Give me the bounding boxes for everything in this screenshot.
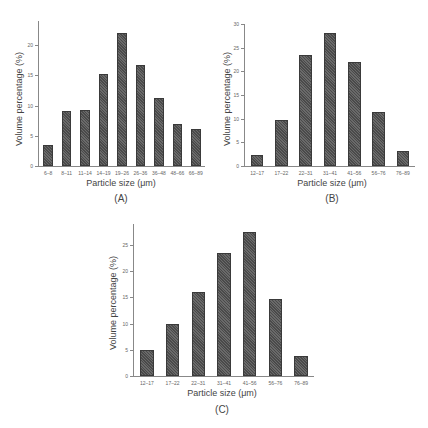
bar (217, 253, 230, 376)
y-tick-label: 10 (122, 321, 128, 327)
x-tick-label: 12–17 (140, 380, 154, 386)
x-tick-label: 8–11 (61, 170, 72, 176)
y-tick (241, 119, 245, 120)
x-tick-label: 14–19 (97, 170, 111, 176)
bar (43, 145, 53, 166)
bar (173, 124, 183, 166)
x-tick-label: 6–8 (44, 170, 52, 176)
plot-area-b: 05101520253012–1717–2222–3131–4141–5656–… (244, 24, 415, 167)
chart-panel-a: 051015206–88–1111–1414–1919–2626–3636–48… (0, 0, 214, 214)
y-tick-label: 5 (236, 139, 239, 145)
y-tick-label: 10 (233, 116, 239, 122)
x-tick-label: 31–41 (217, 380, 231, 386)
y-tick-label: 15 (27, 72, 33, 78)
y-axis-label-b: Volume percentage (%) (222, 52, 232, 146)
x-tick-label: 41–56 (347, 170, 361, 176)
y-tick-label: 20 (122, 268, 128, 274)
bar (191, 129, 201, 166)
bar (294, 356, 307, 376)
y-tick (241, 48, 245, 49)
bar (243, 232, 256, 376)
bar (117, 33, 127, 166)
caption-b: (B) (325, 193, 338, 204)
y-tick-label: 25 (233, 45, 239, 51)
x-tick-label: 76–89 (396, 170, 410, 176)
x-axis-label-a: Particle size (μm) (86, 178, 156, 188)
bar (140, 350, 153, 376)
x-tick-label: 56–76 (268, 380, 282, 386)
y-tick-label: 5 (30, 133, 33, 139)
bar (192, 292, 205, 376)
y-tick-label: 5 (125, 347, 128, 353)
x-tick-label: 12–17 (250, 170, 264, 176)
bar (251, 155, 264, 166)
x-tick-label: 76–89 (294, 380, 308, 386)
bar (166, 324, 179, 376)
x-tick-label: 19–26 (115, 170, 129, 176)
y-tick (241, 166, 245, 167)
x-axis-label-c: Particle size (μm) (187, 388, 257, 398)
x-tick-label: 17–22 (166, 380, 180, 386)
bar (136, 65, 146, 167)
y-tick (35, 45, 39, 46)
y-tick-label: 20 (27, 42, 33, 48)
x-tick-label: 17–22 (274, 170, 288, 176)
y-tick (35, 166, 39, 167)
y-tick (130, 245, 134, 246)
x-tick-label: 41–56 (243, 380, 257, 386)
bar (80, 110, 90, 166)
x-axis-label-b: Particle size (μm) (297, 178, 367, 188)
y-tick (130, 350, 134, 351)
y-tick (35, 136, 39, 137)
caption-c: (C) (215, 404, 229, 415)
caption-a: (A) (114, 193, 127, 204)
y-tick (130, 324, 134, 325)
y-tick-label: 10 (27, 103, 33, 109)
x-tick-label: 56–76 (372, 170, 386, 176)
bar (348, 62, 361, 166)
x-tick-label: 11–14 (78, 170, 92, 176)
bar (324, 33, 337, 166)
y-axis-label-a: Volume percentage (%) (14, 52, 24, 146)
y-tick-label: 20 (233, 68, 239, 74)
y-tick-label: 15 (233, 92, 239, 98)
x-tick-label: 48–66 (170, 170, 184, 176)
x-tick-label: 22–31 (191, 380, 205, 386)
bar (154, 98, 164, 166)
y-tick-label: 30 (233, 21, 239, 27)
y-tick (35, 106, 39, 107)
y-tick (241, 95, 245, 96)
y-tick-label: 0 (236, 163, 239, 169)
y-tick (241, 24, 245, 25)
bar (397, 151, 410, 166)
bar (275, 120, 288, 166)
bar (269, 299, 282, 376)
y-tick (35, 75, 39, 76)
x-tick-label: 36–48 (152, 170, 166, 176)
x-tick-label: 31–41 (323, 170, 337, 176)
y-axis-label-c: Volume percentage (%) (108, 256, 118, 350)
chart-panel-c: 051015202512–1717–2222–3131–4141–5656–76… (100, 210, 328, 428)
y-tick (241, 142, 245, 143)
y-tick-label: 0 (125, 373, 128, 379)
bar (299, 55, 312, 166)
plot-area-a: 051015206–88–1111–1414–1919–2626–3636–48… (38, 21, 205, 167)
bar (372, 112, 385, 166)
chart-panel-b: 05101520253012–1717–2222–3131–4141–5656–… (214, 0, 428, 214)
y-tick (130, 297, 134, 298)
bar (62, 111, 72, 166)
x-tick-label: 26–36 (133, 170, 147, 176)
x-tick-label: 22–31 (299, 170, 313, 176)
y-tick (241, 71, 245, 72)
x-tick-label: 66–89 (189, 170, 203, 176)
bar (99, 74, 109, 166)
y-tick-label: 25 (122, 242, 128, 248)
y-tick (130, 271, 134, 272)
y-tick (130, 376, 134, 377)
y-tick-label: 15 (122, 294, 128, 300)
plot-area-c: 051015202512–1717–2222–3131–4141–5656–76… (133, 224, 314, 377)
y-tick-label: 0 (30, 163, 33, 169)
